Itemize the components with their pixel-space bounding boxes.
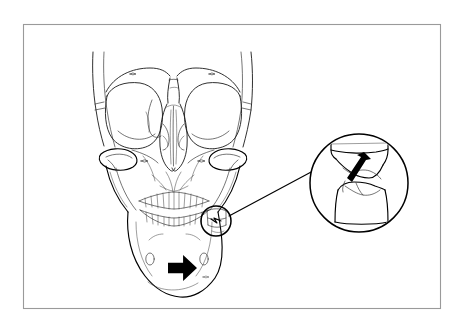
skull-illustration-figure: Anterior view of human skull with magnif… <box>0 0 462 332</box>
illustration-canvas <box>0 0 462 332</box>
